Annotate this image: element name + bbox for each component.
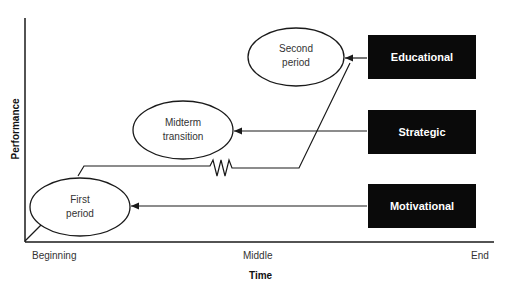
x-tick-end: End	[471, 250, 489, 261]
performance-path	[25, 224, 42, 241]
first-period-line2: period	[50, 207, 110, 221]
x-axis-title: Time	[249, 270, 272, 281]
x-tick-beginning: Beginning	[32, 250, 76, 261]
educational-box: Educational	[368, 35, 476, 79]
x-tick-middle: Middle	[243, 250, 272, 261]
first-period-label: First period	[50, 193, 110, 221]
second-period-label: Second period	[266, 42, 326, 70]
midterm-transition-label: Midterm transition	[148, 116, 218, 144]
first-period-line1: First	[50, 193, 110, 207]
second-period-line1: Second	[266, 42, 326, 56]
y-axis-title: Performance	[10, 100, 21, 160]
midterm-line2: transition	[148, 130, 218, 144]
strategic-box: Strategic	[368, 110, 476, 154]
midterm-line1: Midterm	[148, 116, 218, 130]
motivational-box: Motivational	[368, 184, 476, 228]
second-period-line2: period	[266, 56, 326, 70]
